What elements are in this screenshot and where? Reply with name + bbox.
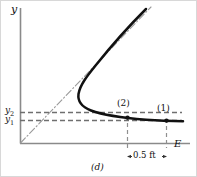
marker-state-2	[125, 115, 129, 119]
marker-state-1	[164, 118, 168, 122]
dimension-label: 0.5 ft	[133, 151, 156, 160]
figure-border	[1, 1, 197, 177]
y1-tick-label-subscript: 1	[10, 119, 14, 127]
x-axis-label: E	[174, 139, 181, 149]
specific-energy-diagram-figure: y E y2 y1 (2) (1) 0.5 ft (d)	[0, 0, 197, 177]
state-1-label: (1)	[157, 104, 170, 113]
y-axis-label: y	[11, 4, 17, 15]
figure-canvas	[0, 0, 197, 177]
state-2-label: (2)	[117, 99, 130, 108]
y1-tick-label: y1	[5, 115, 14, 126]
figure-caption: (d)	[91, 163, 104, 172]
